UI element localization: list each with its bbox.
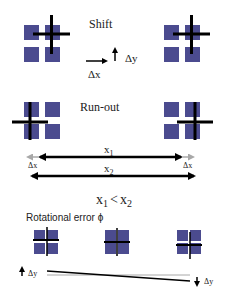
pad-square [185,124,200,139]
shift-section: Shift Δy Δx [24,15,210,80]
pad-square [164,47,179,62]
dy-left-label: Δy [28,269,37,278]
rotation-title: Rotational error ϕ [26,212,104,223]
pad-square [118,230,129,241]
shift-title: Shift [89,17,113,31]
rotation-section: Rotational error ϕ [22,212,213,286]
rotation-middle-fiducial [104,228,130,256]
alignment-error-diagram: Shift Δy Δx Run- [0,0,227,296]
pad-square [24,47,39,62]
dy-right-label: Δy [204,277,213,286]
pad-square [105,230,116,241]
runout-right-fiducial [164,102,213,140]
shift-left-fiducial [24,15,70,62]
rotation-left-fiducial [33,227,59,256]
runout-section: Run-out x1 Δx Δx x2 x1<x2 [12,100,213,209]
rotation-right-fiducial [176,230,202,259]
pad-square [177,230,188,241]
pad-square [118,243,129,254]
diagram-svg: Shift Δy Δx Run- [0,0,227,296]
shift-dy-label: Δy [125,52,138,64]
x1-less-than-x2-relation: x1<x2 [96,192,132,209]
dx-left-label: Δx [28,161,37,170]
pad-square [45,124,60,139]
pad-square [190,230,201,241]
pad-square [47,243,58,254]
pad-square [164,102,179,117]
shift-dx-label: Δx [88,68,101,80]
dx-right-label: Δx [183,161,192,170]
pad-square [105,243,116,254]
pad-square [185,102,200,117]
pad-square [45,102,60,117]
runout-title: Run-out [80,100,120,114]
runout-left-fiducial [12,102,60,140]
rotated-line [47,271,190,281]
shift-right-fiducial [164,15,210,62]
pad-square [164,124,179,139]
pad-square [34,243,45,254]
